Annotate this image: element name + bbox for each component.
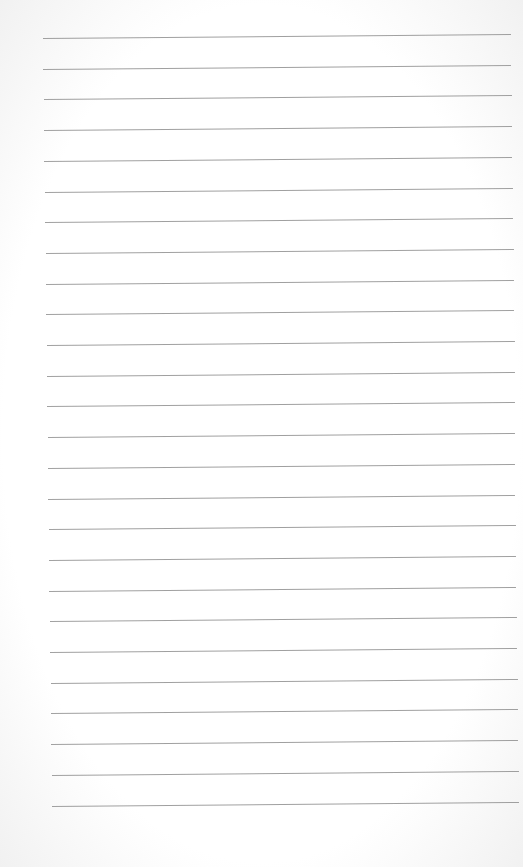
ruled-line (47, 372, 515, 377)
ruled-line (44, 157, 512, 162)
ruled-line (46, 280, 514, 285)
ruled-line (51, 679, 518, 684)
ruled-line (51, 740, 518, 745)
ruled-line (49, 525, 516, 530)
ruled-line (49, 556, 516, 561)
ruled-line (50, 648, 517, 653)
ruled-line (48, 433, 515, 438)
ruled-line (43, 34, 511, 39)
ruled-line (46, 310, 514, 315)
ruled-line (45, 218, 513, 223)
ruled-line (45, 188, 513, 193)
ruled-line (47, 341, 515, 346)
ruled-line (50, 617, 517, 622)
ruled-line (43, 65, 511, 70)
ruled-line (44, 126, 512, 131)
ruled-line (49, 587, 516, 592)
ruled-line (52, 771, 519, 776)
ruled-line (44, 95, 512, 100)
ruled-line (46, 249, 514, 254)
ruled-line (48, 464, 515, 469)
lined-paper-sheet (0, 0, 523, 867)
ruled-line (51, 709, 518, 714)
ruled-line (52, 802, 519, 807)
ruled-line (47, 402, 515, 407)
ruled-line (48, 495, 515, 500)
